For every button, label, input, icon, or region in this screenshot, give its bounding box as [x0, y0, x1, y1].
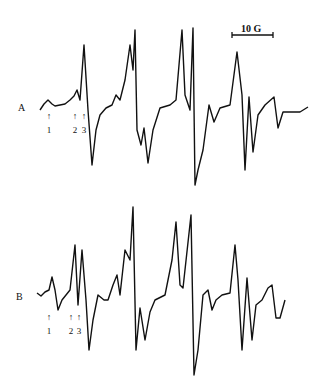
marker-a-3: 3	[79, 126, 89, 135]
arrow-up-icon: ↑	[44, 313, 54, 322]
trace-a-line	[40, 28, 308, 185]
arrow-up-icon: ↑	[79, 112, 89, 121]
trace-b-line	[37, 207, 285, 375]
marker-b-1: 1	[44, 327, 54, 336]
arrow-up-icon: ↑	[74, 313, 84, 322]
marker-b-3: 3	[74, 327, 84, 336]
trace-a-label: A	[18, 103, 25, 113]
scale-bar-label: 10 G	[241, 23, 261, 34]
arrow-up-icon: ↑	[44, 112, 54, 121]
trace-b-label: B	[16, 292, 23, 302]
marker-a-1: 1	[44, 126, 54, 135]
